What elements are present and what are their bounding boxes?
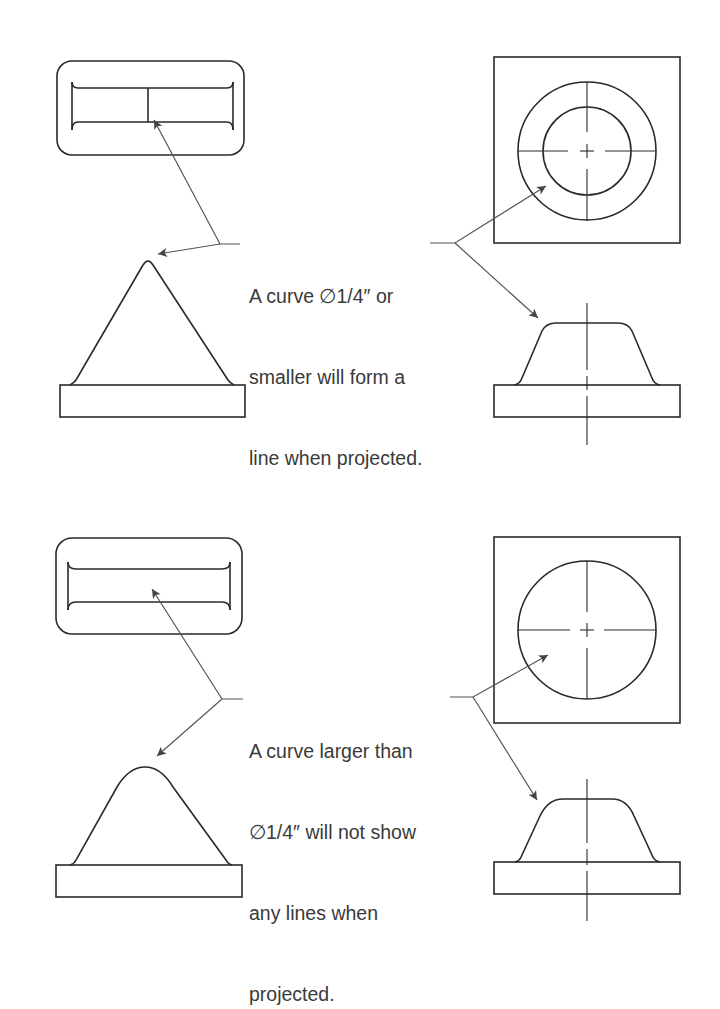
top-view-cone-small	[57, 61, 244, 155]
leader-to-frustum-edge	[455, 243, 538, 318]
leader-to-tangent-line	[154, 120, 240, 244]
top-view-cone-large	[56, 538, 242, 634]
leader-to-circle	[450, 655, 548, 697]
note-large-curve: A curve larger than ∅1/4″ will not show …	[249, 684, 416, 1009]
fillet-top	[68, 562, 230, 569]
outline	[57, 61, 244, 155]
fillet-bottom	[68, 602, 230, 610]
top-view-frustum-small	[494, 57, 680, 243]
note-line: projected.	[249, 981, 416, 1008]
dome-profile	[70, 767, 232, 865]
leader-to-cone-apex	[158, 244, 220, 254]
base	[56, 865, 242, 897]
note-line: A curve larger than	[249, 738, 416, 765]
fillet-top	[72, 82, 233, 88]
base	[60, 385, 245, 417]
note-line: smaller will form a	[249, 364, 422, 391]
front-view-cone-small	[60, 261, 245, 417]
front-view-frustum-small	[494, 303, 680, 445]
note-small-curve: A curve ∅1/4″ or smaller will form a lin…	[249, 229, 422, 499]
note-line: ∅1/4″ will not show	[249, 819, 416, 846]
leader-to-dome	[157, 699, 222, 756]
front-view-cone-large	[56, 767, 242, 897]
leader-to-frustum-edge	[473, 697, 537, 800]
note-line: A curve ∅1/4″ or	[249, 283, 422, 310]
front-view-frustum-large	[494, 779, 680, 921]
fillet-bottom	[72, 122, 233, 130]
outline	[56, 538, 242, 634]
note-line: any lines when	[249, 900, 416, 927]
top-view-frustum-large	[494, 537, 680, 723]
cone-profile	[70, 261, 234, 385]
leader-to-inner-circle	[430, 186, 546, 243]
note-line: line when projected.	[249, 445, 422, 472]
